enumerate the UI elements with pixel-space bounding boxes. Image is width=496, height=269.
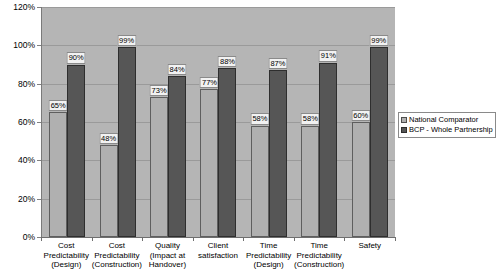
x-axis-category-label-line: (Construction) — [294, 260, 345, 269]
y-axis-tick-label: 40% — [18, 156, 35, 165]
x-axis-category-label-line: (Construction) — [92, 260, 143, 269]
x-axis-category-label: CostPredictability(Construction) — [92, 240, 143, 269]
bar-value-label: 77% — [200, 77, 219, 89]
bar — [200, 89, 218, 237]
bar — [301, 126, 319, 237]
plot-area: 65%90%48%99%73%84%77%88%58%87%58%91%60%9… — [41, 7, 395, 237]
y-axis: 120%100%80%60%40%20%0% — [0, 0, 40, 269]
legend-item-label: BCP - Whole Partnership — [409, 126, 493, 134]
x-axis-category-label: Safety — [344, 240, 395, 269]
bar-value-label: 88% — [218, 56, 237, 68]
x-axis-category-label-line: Predictability — [92, 251, 143, 261]
x-axis-category-label-line: Safety — [344, 241, 395, 251]
x-axis-category-label: TimePredictability(Construction) — [294, 240, 345, 269]
x-axis-category-label-line: Predictability — [41, 251, 92, 261]
x-axis-line — [41, 237, 396, 238]
bar — [100, 145, 118, 237]
bar-value-label: 91% — [319, 50, 338, 62]
bar-slot: 91% — [319, 7, 337, 237]
bar-slot: 58% — [251, 7, 269, 237]
y-axis-tick-label: 80% — [18, 79, 35, 88]
bar-groups: 65%90%48%99%73%84%77%88%58%87%58%91%60%9… — [42, 7, 395, 237]
x-axis-category-label: Clientsatisfaction — [193, 240, 244, 269]
bar-slot: 48% — [100, 7, 118, 237]
bar-value-label: 84% — [168, 64, 187, 76]
x-axis-category-label: Quality(Impact atHandover) — [142, 240, 193, 269]
bar-group: 77%88% — [193, 7, 243, 237]
bar-value-label: 65% — [49, 100, 68, 112]
x-axis-category-label-line: Cost — [41, 241, 92, 251]
legend-item: National Comparator — [401, 115, 493, 125]
y-axis-tick-label: 120% — [13, 3, 35, 12]
x-axis-category-label: TimePredictability(Design) — [243, 240, 294, 269]
x-axis-category-label-line: (Design) — [41, 260, 92, 269]
legend-item-label: National Comparator — [409, 116, 478, 124]
bar-slot: 87% — [269, 7, 287, 237]
bar — [118, 47, 136, 237]
bar-slot: 73% — [150, 7, 168, 237]
bar-value-label: 99% — [117, 35, 136, 47]
x-axis-category-label-line: Cost — [92, 241, 143, 251]
bar-slot: 84% — [168, 7, 186, 237]
y-axis-tick-label: 20% — [18, 194, 35, 203]
bar-value-label: 73% — [150, 85, 169, 97]
bar — [251, 126, 269, 237]
bar-slot: 88% — [218, 7, 236, 237]
x-axis-category-label-line: Predictability — [294, 251, 345, 261]
bar-group: 60%99% — [345, 7, 395, 237]
y-axis-tick-label: 0% — [23, 233, 35, 242]
bar-group: 73%84% — [143, 7, 193, 237]
bar-value-label: 60% — [351, 110, 370, 122]
legend-swatch-national-comparator — [401, 117, 407, 123]
bar — [49, 112, 67, 237]
y-axis-tick-label: 100% — [13, 41, 35, 50]
bar-group: 58%87% — [244, 7, 294, 237]
bar-group: 48%99% — [92, 7, 142, 237]
x-axis-category-label-line: Quality — [142, 241, 193, 251]
x-axis-category-label-line: Client — [193, 241, 244, 251]
bar-value-label: 87% — [268, 58, 287, 70]
bar — [269, 70, 287, 237]
x-axis-tick-mark — [395, 238, 396, 241]
bar-group: 65%90% — [42, 7, 92, 237]
bar-value-label: 58% — [250, 113, 269, 125]
x-axis-category-label-line: Time — [243, 241, 294, 251]
bar-slot: 99% — [118, 7, 136, 237]
bar-value-label: 99% — [369, 35, 388, 47]
x-axis-category-label-line: Predictability — [243, 251, 294, 261]
bar — [218, 68, 236, 237]
x-axis-category-label-line: satisfaction — [193, 251, 244, 261]
bar-slot: 77% — [200, 7, 218, 237]
x-axis-category-label-line: (Impact at — [142, 251, 193, 261]
bar-slot: 99% — [370, 7, 388, 237]
legend-item: BCP - Whole Partnership — [401, 125, 493, 135]
bar — [67, 65, 85, 238]
bar — [352, 122, 370, 237]
bar — [150, 97, 168, 237]
bar — [168, 76, 186, 237]
bar-slot: 90% — [67, 7, 85, 237]
bar — [319, 63, 337, 237]
chart-legend: National ComparatorBCP - Whole Partnersh… — [398, 112, 496, 138]
bar-value-label: 90% — [67, 52, 86, 64]
bar-slot: 60% — [352, 7, 370, 237]
x-axis-category-label: CostPredictability(Design) — [41, 240, 92, 269]
legend-swatch-bcp-whole-partnership — [401, 127, 407, 133]
x-axis-category-label-line: (Design) — [243, 260, 294, 269]
x-axis-labels: CostPredictability(Design)CostPredictabi… — [41, 240, 395, 269]
bar-slot: 65% — [49, 7, 67, 237]
y-axis-tick-label: 60% — [18, 118, 35, 127]
bar-slot: 58% — [301, 7, 319, 237]
bar-value-label: 48% — [99, 133, 118, 145]
bar — [370, 47, 388, 237]
bar-value-label: 58% — [301, 113, 320, 125]
x-axis-category-label-line: Handover) — [142, 260, 193, 269]
bar-group: 58%91% — [294, 7, 344, 237]
x-axis-category-label-line: Time — [294, 241, 345, 251]
